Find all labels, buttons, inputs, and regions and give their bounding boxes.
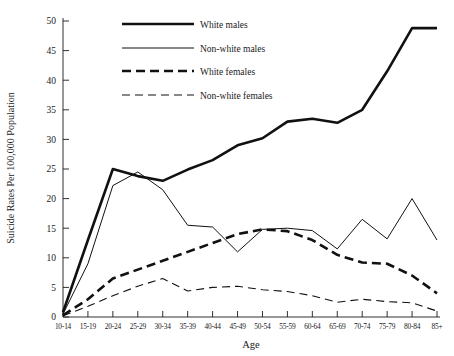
series-line-white-females <box>63 229 437 315</box>
x-tick-label: 80-84 <box>404 322 421 331</box>
y-tick-label: 10 <box>47 253 57 263</box>
x-tick-label: 45-49 <box>229 322 246 331</box>
y-tick-label: 20 <box>47 194 57 204</box>
y-tick-label: 15 <box>47 224 57 234</box>
y-tick-label: 35 <box>47 105 57 115</box>
y-tick-label: 45 <box>47 46 57 56</box>
x-tick-label: 15-19 <box>80 322 97 331</box>
x-tick-label: 65-69 <box>329 322 346 331</box>
x-axis-title: Age <box>242 339 260 350</box>
y-tick-label: 5 <box>51 283 56 293</box>
x-tick-label: 10-14 <box>55 322 72 331</box>
chart-legend: White malesNon-white malesWhite femalesN… <box>122 20 273 101</box>
y-tick-label: 40 <box>47 76 57 86</box>
x-axis-ticks: 10-1415-1920-2425-2930-3435-3940-4445-49… <box>55 311 443 331</box>
y-axis-ticks: 05101520253035404550 <box>47 16 70 322</box>
x-tick-label: 70-74 <box>354 322 371 331</box>
x-tick-label: 30-34 <box>155 322 172 331</box>
y-tick-label: 25 <box>47 164 57 174</box>
suicide-rates-line-chart: 05101520253035404550 10-1415-1920-2425-2… <box>0 0 454 356</box>
x-tick-label: 35-39 <box>180 322 197 331</box>
x-tick-label: 75-79 <box>379 322 396 331</box>
y-tick-label: 30 <box>47 135 57 145</box>
y-tick-label: 50 <box>47 16 57 26</box>
y-axis-title: Suicide Rates Per 100,000 Population <box>5 92 16 243</box>
legend-label-non-white-females: Non-white females <box>200 91 273 101</box>
series-line-non-white-males <box>63 172 437 314</box>
x-tick-label: 60-64 <box>304 322 321 331</box>
x-tick-label: 55-59 <box>279 322 296 331</box>
y-tick-label: 0 <box>51 312 56 322</box>
legend-label-white-females: White females <box>200 67 255 77</box>
series-line-non-white-females <box>63 279 437 316</box>
x-tick-label: 40-44 <box>204 322 221 331</box>
legend-label-non-white-males: Non-white males <box>200 44 265 54</box>
chart-canvas: 05101520253035404550 10-1415-1920-2425-2… <box>0 0 454 356</box>
legend-label-white-males: White males <box>200 20 248 30</box>
x-tick-label: 85+ <box>432 322 443 331</box>
x-tick-label: 25-29 <box>130 322 147 331</box>
x-tick-label: 50-54 <box>254 322 271 331</box>
x-tick-label: 20-24 <box>105 322 122 331</box>
